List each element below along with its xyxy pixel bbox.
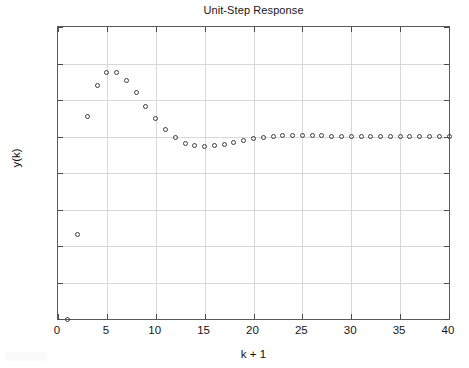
y-axis-tick: [444, 246, 449, 247]
x-axis-tick-label: 0: [54, 324, 60, 336]
data-point-marker: [319, 133, 324, 138]
x-axis-tick: [351, 314, 352, 319]
y-axis-tick: [58, 210, 63, 211]
x-axis-tick-label: 10: [148, 324, 161, 336]
x-axis-tick: [205, 314, 206, 319]
data-point-marker: [85, 114, 90, 119]
gridline-vertical: [400, 27, 401, 319]
x-axis-tick: [156, 314, 157, 319]
y-axis-tick: [58, 137, 63, 138]
data-point-marker: [192, 143, 197, 148]
data-point-marker: [143, 104, 148, 109]
data-point-marker: [290, 133, 295, 138]
x-axis-tick: [351, 27, 352, 32]
data-point-marker: [407, 134, 412, 139]
data-point-marker: [300, 133, 305, 138]
data-point-marker: [153, 116, 158, 121]
x-axis-tick-label: 25: [295, 324, 308, 336]
data-point-marker: [163, 127, 168, 132]
y-axis-tick: [58, 64, 63, 65]
gridline-vertical: [205, 27, 206, 319]
x-axis-tick: [400, 314, 401, 319]
data-point-marker: [280, 133, 285, 138]
x-axis-tick: [400, 27, 401, 32]
plot-area: [57, 26, 450, 320]
data-point-marker: [212, 143, 217, 148]
x-axis-tick-label: 30: [344, 324, 357, 336]
gridline-vertical: [351, 27, 352, 319]
x-axis-tick: [449, 314, 450, 319]
data-point-marker: [437, 134, 442, 139]
data-point-marker: [231, 140, 236, 145]
x-axis-tick: [302, 314, 303, 319]
data-point-marker: [368, 134, 373, 139]
x-axis-tick-label: 20: [246, 324, 259, 336]
y-axis-label: y(k): [10, 128, 22, 188]
gridline-vertical: [156, 27, 157, 319]
x-axis-label: k + 1: [57, 348, 450, 360]
chart-title: Unit-Step Response: [57, 4, 450, 16]
plot-inner: [58, 27, 449, 319]
x-axis-tick: [254, 314, 255, 319]
data-point-marker: [75, 232, 80, 237]
data-point-marker: [349, 134, 354, 139]
y-axis-tick: [444, 283, 449, 284]
data-point-marker: [339, 134, 344, 139]
data-point-marker: [447, 134, 452, 139]
x-axis-tick: [58, 314, 59, 319]
data-point-marker: [65, 317, 70, 322]
scan-artifact: [6, 352, 46, 361]
x-axis-tick: [156, 27, 157, 32]
x-axis-tick-label: 40: [442, 324, 455, 336]
figure-canvas: Unit-Step Response k + 1 y(k) 00.20.40.6…: [0, 0, 469, 368]
y-axis-tick: [444, 64, 449, 65]
data-point-marker: [202, 144, 207, 149]
data-point-marker: [417, 134, 422, 139]
data-point-marker: [104, 70, 109, 75]
x-axis-tick-label: 15: [197, 324, 210, 336]
data-point-marker: [251, 136, 256, 141]
data-point-marker: [261, 135, 266, 140]
y-axis-tick: [58, 100, 63, 101]
x-axis-tick-label: 35: [393, 324, 406, 336]
data-point-marker: [114, 70, 119, 75]
data-point-marker: [398, 134, 403, 139]
data-point-marker: [124, 78, 129, 83]
y-axis-tick: [444, 210, 449, 211]
x-axis-tick: [302, 27, 303, 32]
y-axis-tick: [58, 319, 63, 320]
x-axis-tick: [449, 27, 450, 32]
y-axis-tick: [444, 173, 449, 174]
x-axis-tick: [254, 27, 255, 32]
x-axis-tick: [107, 314, 108, 319]
data-point-marker: [134, 90, 139, 95]
gridline-vertical: [254, 27, 255, 319]
y-axis-tick: [444, 100, 449, 101]
data-point-marker: [329, 134, 334, 139]
data-point-marker: [222, 142, 227, 147]
y-axis-tick: [58, 173, 63, 174]
x-axis-tick-label: 5: [103, 324, 109, 336]
y-axis-tick: [58, 246, 63, 247]
x-axis-tick: [205, 27, 206, 32]
x-axis-tick: [107, 27, 108, 32]
gridline-vertical: [302, 27, 303, 319]
data-point-marker: [427, 134, 432, 139]
data-point-marker: [241, 138, 246, 143]
data-point-marker: [183, 141, 188, 146]
data-point-marker: [310, 133, 315, 138]
data-point-marker: [359, 134, 364, 139]
x-axis-tick: [58, 27, 59, 32]
y-axis-tick: [444, 319, 449, 320]
data-point-marker: [95, 83, 100, 88]
data-point-marker: [173, 135, 178, 140]
y-axis-tick: [58, 283, 63, 284]
data-point-marker: [388, 134, 393, 139]
data-point-marker: [271, 134, 276, 139]
data-point-marker: [378, 134, 383, 139]
